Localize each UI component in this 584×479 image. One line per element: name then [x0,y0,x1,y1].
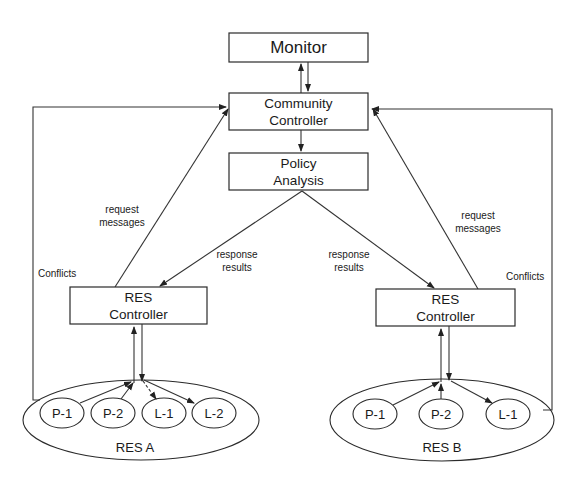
res-a-response-label-line1: response [216,249,258,260]
res-a-controller-box: RES Controller [70,287,207,324]
arrow-hub-b-to-l1 [451,381,492,403]
res-a-controller-label-line2: Controller [109,307,168,322]
res-b-node-l1: L-1 [486,399,530,429]
svg-text:L-2: L-2 [205,406,224,421]
arrow-res-a-request [115,109,228,287]
res-a-group-label: RES A [116,440,155,455]
res-b-response-label-line1: response [328,249,370,260]
policy-analysis-box: Policy Analysis [229,153,368,190]
svg-text:L-1: L-1 [499,407,518,422]
res-a-controller-label-line1: RES [125,290,153,305]
svg-text:P-1: P-1 [365,407,385,422]
res-a-node-l1: L-1 [142,398,186,428]
res-b-node-p2: P-2 [419,399,463,429]
res-b-controller-label-line1: RES [432,292,460,307]
res-architecture-diagram: Monitor Community Controller Policy Anal… [0,0,584,479]
conflicts-line-res-a [33,107,226,400]
res-a-group: P-1 P-2 L-1 L-2 RES A [23,380,259,460]
res-a-response-label-line2: results [222,262,251,273]
res-b-controller-label-line2: Controller [416,309,475,324]
res-a-conflicts-label: Conflicts [38,268,76,279]
community-controller-box: Community Controller [229,93,368,130]
res-a-request-label-line2: messages [99,217,145,228]
svg-text:P-1: P-1 [52,406,72,421]
res-a-node-p1: P-1 [40,398,84,428]
policy-analysis-label-line1: Policy [280,156,316,171]
community-controller-label-line1: Community [264,96,333,111]
arrow-policy-to-res-b [302,191,434,288]
res-b-node-p1: P-1 [353,399,397,429]
policy-analysis-label-line2: Analysis [273,173,324,188]
svg-text:P-2: P-2 [103,406,123,421]
res-b-group-label: RES B [422,440,461,455]
svg-text:L-1: L-1 [155,406,174,421]
arrow-p1-to-hub-b [393,382,439,405]
res-b-response-label-line2: results [334,262,363,273]
res-b-conflicts-label: Conflicts [506,271,544,282]
res-b-request-label-line2: messages [455,223,501,234]
svg-text:P-2: P-2 [431,407,451,422]
monitor-box: Monitor [229,33,368,62]
arrow-res-b-request [373,109,478,289]
community-controller-label-line2: Controller [269,113,328,128]
res-b-request-label-line1: request [461,210,495,221]
res-b-group: P-1 P-2 L-1 RES B [330,379,554,461]
monitor-label: Monitor [270,38,327,57]
res-a-node-p2: P-2 [91,398,135,428]
res-a-node-l2: L-2 [192,398,236,428]
res-a-request-label-line1: request [105,204,139,215]
arrow-hub-a-to-l1 [143,381,156,399]
res-b-controller-box: RES Controller [376,289,515,326]
